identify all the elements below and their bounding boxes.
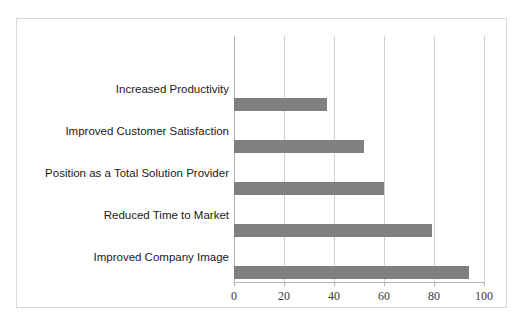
bar[interactable] [234,224,432,237]
bar-row: Improved Company Image [17,250,508,292]
bar-row: Position as a Total Solution Provider [17,166,508,208]
bar-track [234,98,484,111]
category-label: Position as a Total Solution Provider [17,166,229,180]
bar[interactable] [234,182,384,195]
bar-track [234,266,484,279]
bar-row: Improved Customer Satisfaction [17,124,508,166]
bar[interactable] [234,266,469,279]
bar-row: Increased Productivity [17,82,508,124]
bar-track [234,140,484,153]
bar-chart-figure: 0 20 40 60 80 100 Increased Productivity… [0,0,523,327]
category-label: Improved Customer Satisfaction [17,124,229,138]
category-label: Reduced Time to Market [17,208,229,222]
bar[interactable] [234,98,327,111]
bar-row: Reduced Time to Market [17,208,508,250]
chart-frame: 0 20 40 60 80 100 Increased Productivity… [16,18,507,308]
bar-track [234,224,484,237]
bar[interactable] [234,140,364,153]
category-label: Increased Productivity [17,82,229,96]
category-label: Improved Company Image [17,250,229,264]
bar-track [234,182,484,195]
